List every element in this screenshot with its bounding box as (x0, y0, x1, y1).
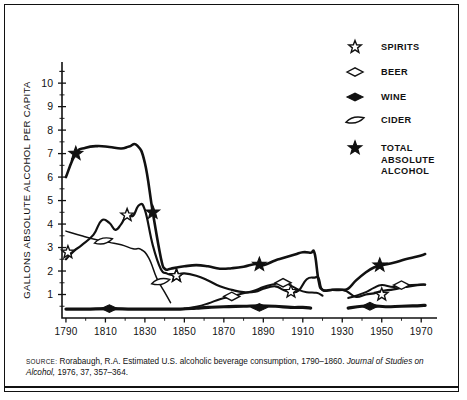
source-citation: SOURCE: Rorabaugh, R.A. Estimated U.S. a… (26, 356, 444, 379)
source-label: SOURCE: (26, 358, 57, 365)
marker-cider-lens (152, 279, 170, 285)
y-tick-label: 10 (41, 77, 53, 89)
series-cider (66, 231, 171, 303)
x-tick-label: 1830 (133, 326, 156, 337)
legend-label-spirits: SPIRITS (381, 42, 420, 52)
y-axis-title: GALLONS ABSOLUTE ALCOHOL PER CAPITA (21, 81, 32, 299)
source-text-2: 1976, 37, 357–364. (55, 368, 128, 377)
marker-wine-diamond (347, 93, 363, 101)
marker-cider-lens (346, 117, 364, 123)
legend-label-cider: CIDER (381, 115, 412, 125)
x-tick-label: 1850 (173, 326, 196, 337)
legend-label-beer: BEER (381, 67, 408, 77)
x-tick-label: 1890 (252, 326, 275, 337)
y-tick-label: 7 (47, 147, 53, 159)
marker-wine-diamond (101, 305, 117, 313)
source-text-1: Rorabaugh, R.A. Estimated U.S. alcoholic… (57, 357, 346, 366)
marker-beer-diamond (347, 68, 363, 76)
series-total (66, 144, 425, 291)
x-tick-label: 1870 (212, 326, 235, 337)
y-tick-label: 8 (47, 124, 53, 136)
marker-total-star (348, 141, 362, 154)
x-tick-label: 1810 (94, 326, 117, 337)
y-tick-label: 5 (47, 194, 53, 206)
x-tick-label: 1970 (410, 326, 433, 337)
x-tick-label: 1930 (331, 326, 354, 337)
legend-label-wine: WINE (381, 92, 407, 102)
y-tick-label: 1 (47, 288, 53, 300)
series-wine (348, 305, 425, 308)
y-tick-label: 2 (47, 265, 53, 277)
legend-label-total: ABSOLUTE (381, 155, 435, 165)
marker-wine-diamond (362, 302, 378, 310)
marker-beer-diamond (224, 292, 240, 300)
marker-total-star (373, 258, 387, 271)
legend-group: SPIRITSBEERWINECIDERTOTALABSOLUTEALCOHOL (346, 40, 435, 176)
marker-spirits-star (170, 269, 183, 281)
marker-spirits-star (349, 40, 362, 52)
source-divider (5, 386, 458, 388)
y-tick-label: 4 (47, 218, 53, 230)
x-tick-label: 1910 (291, 326, 314, 337)
x-tick-label: 1950 (370, 326, 393, 337)
y-tick-label: 9 (47, 100, 53, 112)
marker-spirits-star (121, 209, 134, 221)
marker-total-star (253, 257, 267, 270)
chart-svg: 1234567891017901810183018501870189019101… (0, 0, 467, 400)
x-tick-label: 1790 (54, 326, 77, 337)
y-tick-label: 6 (47, 171, 53, 183)
series-spirits (66, 204, 425, 297)
legend-label-total: ALCOHOL (381, 166, 429, 176)
legend-label-total: TOTAL (381, 143, 413, 153)
source-journal-1: Journal of Studies (347, 357, 413, 366)
chart-canvas: 1234567891017901810183018501870189019101… (0, 0, 467, 400)
y-tick-label: 3 (47, 241, 53, 253)
series-group (66, 144, 425, 309)
